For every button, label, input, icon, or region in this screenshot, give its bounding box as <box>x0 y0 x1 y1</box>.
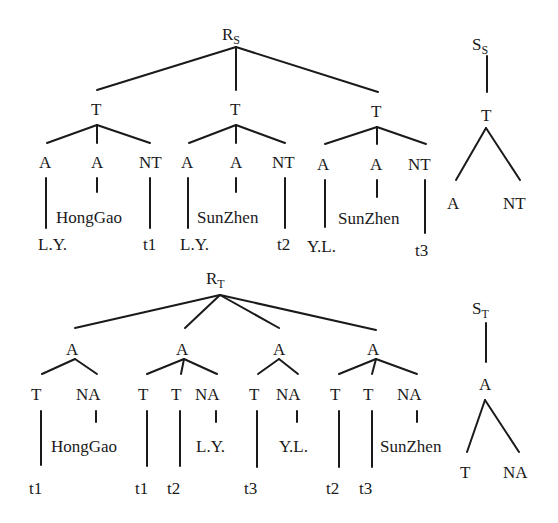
bottom-a1-label: A <box>66 340 79 359</box>
top-schema-tree: SS T A NT <box>447 35 526 213</box>
top-t3-child-a1: A <box>317 155 330 174</box>
top-t1-child-a2: A <box>91 153 104 172</box>
bottom-schema-child-t: T <box>460 463 471 482</box>
bottom-schema-root-label: ST <box>472 299 489 321</box>
top-t1-child-a1: A <box>39 153 52 172</box>
tree-diagram: RS T A A NT L.Y. HongGao t1 T A A NT L.Y… <box>0 0 558 523</box>
bottom-a1-child-na: NA <box>76 385 101 404</box>
bottom-a3-child-t: T <box>249 385 260 404</box>
top-t1-label: T <box>91 100 102 119</box>
edge <box>236 47 378 92</box>
bottom-schema-tree: ST A T NA <box>460 299 528 482</box>
top-t2-child-a2: A <box>230 153 243 172</box>
bottom-tree: RT A T NA t1 HongGao A T T NA t1 t2 L.Y.… <box>29 269 442 498</box>
bottom-a2-leaf-2: t2 <box>167 479 180 498</box>
bottom-schema-node-label: A <box>479 375 492 394</box>
bottom-a3-leaf-2: Y.L. <box>279 437 308 456</box>
bottom-a2-child-t1: T <box>138 385 149 404</box>
bottom-a2-leaf-3: L.Y. <box>196 437 225 456</box>
bottom-a4-label: A <box>367 340 380 359</box>
edge <box>97 47 236 90</box>
top-t2-label: T <box>230 100 241 119</box>
top-t3-label: T <box>371 102 382 121</box>
bottom-a1-leaf-1: t1 <box>29 479 42 498</box>
top-schema-root-label: SS <box>472 35 488 57</box>
top-root-label: RS <box>222 25 240 47</box>
top-schema-child-nt: NT <box>503 194 526 213</box>
bottom-root-label: RT <box>206 269 225 291</box>
top-t3-child-a2: A <box>370 155 383 174</box>
bottom-a2-leaf-1: t1 <box>135 479 148 498</box>
top-t2-child-a1: A <box>181 153 194 172</box>
top-tree: RS T A A NT L.Y. HongGao t1 T A A NT L.Y… <box>38 25 431 260</box>
top-t2-child-nt: NT <box>272 153 295 172</box>
top-t1-child-nt: NT <box>139 153 162 172</box>
bottom-a4-leaf-2: t3 <box>359 479 372 498</box>
top-t2-leaf-2: SunZhen <box>197 208 259 227</box>
bottom-a4-child-t2: T <box>363 385 374 404</box>
bottom-schema-child-na: NA <box>503 463 528 482</box>
top-t1-leaf-2: HongGao <box>56 208 122 227</box>
top-t2-leaf-1: L.Y. <box>180 235 209 254</box>
top-t3-child-nt: NT <box>408 155 431 174</box>
top-t2-leaf-3: t2 <box>277 235 290 254</box>
bottom-a3-leaf-1: t3 <box>244 479 257 498</box>
bottom-a4-leaf-1: t2 <box>326 479 339 498</box>
bottom-a4-child-t1: T <box>330 385 341 404</box>
bottom-a3-label: A <box>273 340 286 359</box>
top-t3-leaf-2: SunZhen <box>338 209 400 228</box>
bottom-a4-leaf-3: SunZhen <box>380 437 442 456</box>
top-schema-node-label: T <box>481 106 492 125</box>
top-t1-leaf-3: t1 <box>143 235 156 254</box>
bottom-a2-child-t2: T <box>171 385 182 404</box>
bottom-a3-child-na: NA <box>276 385 301 404</box>
top-t3-leaf-1: Y.L. <box>307 237 336 256</box>
top-schema-child-a: A <box>447 194 460 213</box>
bottom-a2-label: A <box>176 340 189 359</box>
top-t3-leaf-3: t3 <box>415 241 428 260</box>
bottom-a1-leaf-2: HongGao <box>51 437 117 456</box>
bottom-a4-child-na: NA <box>397 385 422 404</box>
bottom-a2-child-na: NA <box>195 385 220 404</box>
bottom-a1-child-t: T <box>31 385 42 404</box>
top-t1-leaf-1: L.Y. <box>38 235 67 254</box>
